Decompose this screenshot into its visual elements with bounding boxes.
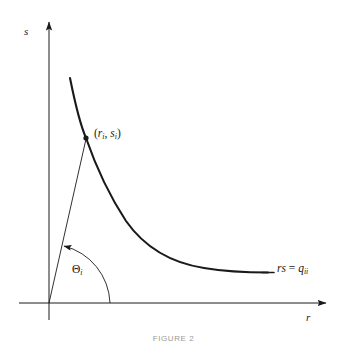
point-label-close: ): [117, 127, 121, 139]
point-coordinate-label: (ri, si): [94, 128, 121, 141]
figure-drawing: [0, 0, 347, 343]
angle-label: Θi: [72, 264, 82, 277]
curve-label-rhs-subscript: ii: [304, 267, 308, 276]
curve-label-equals: =: [286, 262, 298, 274]
hyperbola-curve: [70, 78, 268, 273]
y-axis-label: s: [24, 26, 28, 37]
x-axis-label: r: [306, 312, 310, 323]
curve-equation-label: rs = qii: [277, 263, 308, 276]
figure-caption: FIGURE 2: [0, 334, 347, 343]
curve-label-lhs: rs: [277, 262, 286, 274]
point-marker: [83, 135, 88, 140]
angle-arc: [64, 246, 110, 303]
figure-container: s r (ri, si) Θi rs = qii FIGURE 2: [0, 0, 347, 343]
theta-subscript: i: [80, 268, 82, 277]
radius-ray: [49, 139, 86, 303]
